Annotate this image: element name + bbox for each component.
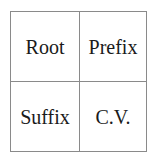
cell-root: Root: [11, 12, 80, 82]
word-parts-grid: Root Prefix Suffix C.V.: [10, 11, 147, 152]
cell-prefix: Prefix: [80, 12, 146, 82]
cell-cv: C.V.: [80, 82, 146, 151]
cell-suffix: Suffix: [11, 82, 80, 151]
